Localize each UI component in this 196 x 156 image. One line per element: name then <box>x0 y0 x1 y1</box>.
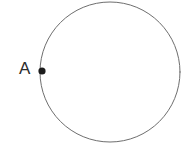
point-A-marker-dot <box>38 67 45 74</box>
figure-canvas: A <box>0 0 196 156</box>
geometry-diagram-svg <box>0 0 196 156</box>
background-rect <box>0 0 196 156</box>
point-A-label: A <box>19 60 30 78</box>
